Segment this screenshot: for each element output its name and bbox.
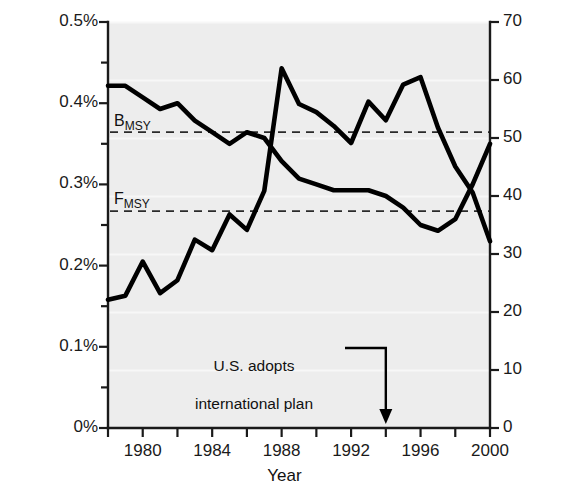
chart-figure: Fishing mortality Biomass (per thousand …: [0, 0, 569, 494]
y-tick-label-right: 60: [503, 69, 543, 89]
x-tick-label: 1980: [113, 441, 173, 461]
y-tick-label-left: 0%: [20, 417, 98, 437]
x-tick-label: 1988: [252, 441, 312, 461]
y-tick-label-right: 20: [503, 301, 543, 321]
bmsy-subscript: MSY: [125, 119, 151, 133]
y-tick-label-left: 0.3%: [20, 173, 98, 193]
y-tick-label-left: 0.4%: [20, 92, 98, 112]
x-axis-title: Year: [0, 466, 569, 486]
x-tick-label: 1992: [321, 441, 381, 461]
y-tick-label-right: 40: [503, 185, 543, 205]
y-tick-label-left: 0.2%: [20, 255, 98, 275]
y-tick-label-left: 0.5%: [20, 11, 98, 31]
annotation-line-2: international plan: [168, 395, 340, 414]
fmsy-subscript: MSY: [124, 197, 150, 211]
y-tick-label-right: 30: [503, 243, 543, 263]
x-tick-label: 1984: [182, 441, 242, 461]
y-tick-label-right: 10: [503, 359, 543, 379]
y-tick-label-right: 0: [503, 417, 543, 437]
x-tick-label: 2000: [460, 441, 520, 461]
y-tick-label-right: 50: [503, 127, 543, 147]
annotation-line-1: U.S. adopts: [168, 357, 340, 376]
fmsy-text: F: [114, 190, 124, 207]
bmsy-reference-label: BMSY: [114, 112, 151, 133]
annotation-us-adopts-plan: U.S. adopts international plan: [168, 338, 340, 433]
bmsy-text: B: [114, 112, 125, 129]
x-tick-label: 1996: [391, 441, 451, 461]
fmsy-reference-label: FMSY: [114, 190, 150, 211]
y-tick-label-left: 0.1%: [20, 336, 98, 356]
y-tick-label-right: 70: [503, 11, 543, 31]
